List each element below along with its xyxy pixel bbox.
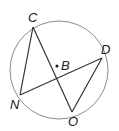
- label-n: N: [10, 97, 20, 112]
- segment-do: [72, 58, 102, 112]
- center-point: [55, 64, 58, 67]
- label-d: D: [101, 42, 110, 57]
- label-o: O: [68, 114, 78, 129]
- label-b: B: [61, 58, 70, 73]
- label-c: C: [28, 10, 38, 25]
- circle-diagram: C B D N O: [0, 0, 119, 131]
